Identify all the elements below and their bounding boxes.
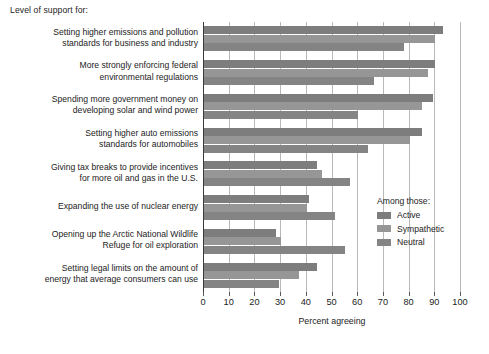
x-tick-label: 80 [403, 297, 413, 307]
bar-sympathetic [204, 136, 410, 144]
legend-item-label: Sympathetic [397, 224, 444, 234]
category-label: Expanding the use of nuclear energy [8, 201, 198, 212]
bar-sympathetic [204, 237, 281, 245]
x-tick-label: 100 [452, 297, 467, 307]
category-label: Setting higher auto emissionsstandards f… [8, 128, 198, 151]
bar-group [204, 60, 460, 85]
bar-group [204, 94, 460, 119]
category-label: Giving tax breaks to provide incentivesf… [8, 162, 198, 185]
bar-sympathetic [204, 35, 435, 43]
bar-neutral [204, 212, 335, 220]
bar-sympathetic [204, 204, 307, 212]
plot-area [203, 22, 460, 292]
legend-item-label: Neutral [397, 237, 425, 247]
x-tick-label: 10 [224, 297, 234, 307]
bar-sympathetic [204, 69, 428, 77]
bar-neutral [204, 43, 404, 51]
x-tick-mark [306, 292, 307, 296]
bar-active [204, 229, 276, 237]
category-label-line: environmental regulations [8, 72, 198, 83]
category-label-line: standards for business and industry [8, 38, 198, 49]
bar-active [204, 263, 317, 271]
x-tick-mark [280, 292, 281, 296]
bar-active [204, 26, 443, 34]
category-label-line: developing solar and wind power [8, 105, 198, 116]
bar-active [204, 128, 422, 136]
category-label-line: More strongly enforcing federal [8, 60, 198, 71]
x-axis: 0102030405060708090100 [203, 292, 461, 312]
bar-sympathetic [204, 271, 299, 279]
legend-title: Among those: [377, 196, 485, 206]
chart-legend: Among those: ActiveSympatheticNeutral [377, 196, 485, 251]
bar-neutral [204, 145, 368, 153]
bar-sympathetic [204, 102, 422, 110]
x-tick-mark [254, 292, 255, 296]
x-tick-mark [332, 292, 333, 296]
category-label: More strongly enforcing federalenvironme… [8, 60, 198, 83]
bar-active [204, 60, 435, 68]
x-tick-label: 90 [429, 297, 439, 307]
bar-sympathetic [204, 170, 322, 178]
category-label: Spending more government money ondevelop… [8, 94, 198, 117]
x-tick-label: 60 [352, 297, 362, 307]
category-label: Setting legal limits on the amount ofene… [8, 263, 198, 286]
bar-group [204, 26, 460, 51]
x-tick-mark [460, 292, 461, 296]
legend-swatch-icon [377, 239, 391, 246]
category-label-line: standards for automobiles [8, 139, 198, 150]
bar-neutral [204, 77, 374, 85]
legend-item-label: Active [397, 210, 420, 220]
x-tick-mark [357, 292, 358, 296]
category-label-line: energy that average consumers can use [8, 274, 198, 285]
legend-swatch-icon [377, 225, 391, 232]
bar-active [204, 161, 317, 169]
bar-active [204, 195, 309, 203]
category-label-line: Setting higher auto emissions [8, 128, 198, 139]
legend-rows: ActiveSympatheticNeutral [377, 210, 485, 247]
legend-item[interactable]: Neutral [377, 237, 485, 247]
bar-neutral [204, 111, 358, 119]
legend-item[interactable]: Sympathetic [377, 224, 485, 234]
category-labels: Setting higher emissions and pollutionst… [8, 22, 198, 292]
gridline [460, 22, 461, 292]
x-tick-mark [383, 292, 384, 296]
x-tick-label: 40 [301, 297, 311, 307]
bar-group [204, 161, 460, 186]
bar-neutral [204, 280, 279, 288]
x-tick-mark [409, 292, 410, 296]
category-label-line: Giving tax breaks to provide incentives [8, 162, 198, 173]
category-label-line: Expanding the use of nuclear energy [8, 201, 198, 212]
x-tick-label: 20 [249, 297, 259, 307]
bar-neutral [204, 178, 350, 186]
category-label: Opening up the Arctic National WildlifeR… [8, 229, 198, 252]
x-tick-label: 30 [275, 297, 285, 307]
bar-group [204, 263, 460, 288]
chart-intro-label: Level of support for: [10, 5, 88, 15]
x-tick-mark [229, 292, 230, 296]
category-label-line: Spending more government money on [8, 94, 198, 105]
category-label-line: Refuge for oil exploration [8, 240, 198, 251]
chart-container: Level of support for: Setting higher emi… [0, 0, 489, 354]
legend-swatch-icon [377, 212, 391, 219]
x-tick-label: 70 [378, 297, 388, 307]
legend-item[interactable]: Active [377, 210, 485, 220]
x-tick-label: 0 [200, 297, 205, 307]
category-label-line: Setting legal limits on the amount of [8, 263, 198, 274]
bar-active [204, 94, 433, 102]
x-tick-mark [203, 292, 204, 296]
bar-group [204, 128, 460, 153]
x-tick-label: 50 [326, 297, 336, 307]
bar-neutral [204, 246, 345, 254]
category-label-line: for more oil and gas in the U.S. [8, 173, 198, 184]
x-axis-title: Percent agreeing [203, 316, 461, 326]
x-tick-mark [434, 292, 435, 296]
category-label-line: Opening up the Arctic National Wildlife [8, 229, 198, 240]
category-label-line: Setting higher emissions and pollution [8, 27, 198, 38]
category-label: Setting higher emissions and pollutionst… [8, 27, 198, 50]
